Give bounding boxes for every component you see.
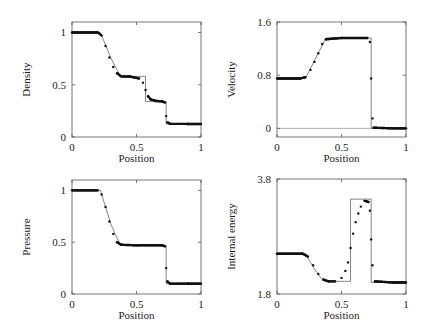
numerical-solution-dots <box>71 189 202 285</box>
y-tick-label: 0 <box>61 288 67 300</box>
x-axis-label: Position <box>323 152 360 164</box>
y-axis-label: Internal energy <box>225 203 237 270</box>
x-tick-label: 0 <box>69 141 75 153</box>
numerical-solution-dots <box>71 31 202 125</box>
x-tick-label: 0 <box>274 298 280 310</box>
y-tick-label: 0 <box>266 122 272 134</box>
y-axis-label: Pressure <box>20 218 32 255</box>
velocity-panel: 00.5100.81.6PositionVelocity <box>225 16 409 164</box>
y-tick-label: 0.5 <box>52 79 66 91</box>
y-tick-label: 1 <box>61 184 67 196</box>
x-tick-label: 0 <box>69 298 75 310</box>
y-tick-label: 1 <box>61 26 67 38</box>
y-axis-label: Density <box>20 62 32 97</box>
y-tick-label: 3.8 <box>257 173 271 185</box>
pressure-panel: 00.5100.51PositionPressure <box>20 180 204 321</box>
x-tick-label: 1 <box>403 298 409 310</box>
numerical-solution-dots <box>276 200 407 284</box>
y-tick-label: 0 <box>61 131 67 143</box>
x-tick-label: 0 <box>274 141 280 153</box>
y-tick-label: 0.5 <box>52 236 66 248</box>
y-tick-label: 1.8 <box>257 288 271 300</box>
density-plot-frame <box>72 22 201 137</box>
x-tick-label: 1 <box>403 141 409 153</box>
exact-solution-line <box>277 199 406 282</box>
density-panel: 00.5100.51PositionDensity <box>20 22 204 164</box>
x-tick-label: 1 <box>198 141 204 153</box>
x-axis-label: Position <box>323 309 360 321</box>
x-tick-label: 1 <box>198 298 204 310</box>
figure-canvas: 00.5100.51PositionDensity00.5100.81.6Pos… <box>0 0 426 334</box>
y-tick-label: 1.6 <box>257 16 271 28</box>
x-axis-label: Position <box>118 309 155 321</box>
y-tick-label: 0.8 <box>257 69 271 81</box>
exact-solution-line <box>277 38 406 128</box>
pressure-plot-frame <box>72 180 201 294</box>
internal-energy-panel: 00.511.83.8PositionInternal energy <box>225 173 409 321</box>
numerical-solution-dots <box>276 37 407 130</box>
exact-solution-line <box>72 190 201 283</box>
y-axis-label: Velocity <box>225 61 237 98</box>
x-axis-label: Position <box>118 152 155 164</box>
